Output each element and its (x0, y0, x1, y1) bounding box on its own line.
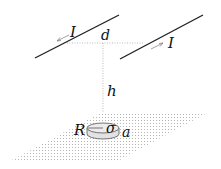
wire-right (120, 15, 203, 59)
label-current-left: I (69, 23, 77, 41)
label-charge-density: σ (106, 120, 116, 136)
current-arrow-left-icon (57, 35, 69, 41)
label-current-right: I (167, 34, 175, 52)
label-height: h (107, 82, 117, 100)
diagram-canvas: I I d h R σ a (0, 0, 221, 169)
label-disk-radius: R (73, 121, 85, 139)
label-thickness: a (122, 124, 130, 140)
label-separation: d (101, 27, 110, 43)
current-arrow-right-icon (151, 43, 163, 49)
